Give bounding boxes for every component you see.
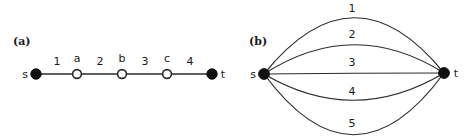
panel-b-edge-labels: 1 2 3 4 5 [349, 2, 356, 130]
edge-label-2: 2 [97, 55, 104, 68]
parallel-edge-label-4: 4 [349, 85, 356, 98]
graph-figure: (a) 1 2 3 4 [0, 0, 471, 139]
node-label-b: b [119, 52, 126, 65]
parallel-edge-label-3: 3 [349, 56, 356, 69]
node-t [207, 69, 217, 79]
node-label-t: t [221, 68, 226, 81]
node-label-c: c [164, 52, 170, 65]
node-b [118, 70, 127, 79]
node-s [31, 69, 41, 79]
node-label-s-multigraph: s [250, 68, 256, 81]
node-c [163, 70, 172, 79]
node-s-multigraph [259, 69, 270, 80]
node-label-s: s [22, 68, 28, 81]
parallel-edge-label-1: 1 [349, 2, 356, 15]
parallel-edge-label-5: 5 [349, 117, 356, 130]
node-label-t-multigraph: t [454, 67, 459, 80]
panel-b: (b) 1 2 3 4 5 [249, 2, 459, 135]
edge-label-3: 3 [142, 55, 149, 68]
parallel-edge-3 [264, 73, 444, 74]
edge-label-4: 4 [187, 55, 194, 68]
panel-b-caption: (b) [249, 35, 267, 48]
panel-a-caption: (a) [13, 35, 31, 48]
figure-container: (a) 1 2 3 4 [0, 0, 471, 139]
edge-label-1: 1 [54, 55, 61, 68]
panel-a: (a) 1 2 3 4 [13, 35, 226, 81]
node-a [73, 70, 82, 79]
node-t-multigraph [439, 68, 450, 79]
parallel-edge-label-2: 2 [349, 28, 356, 41]
node-label-a: a [74, 52, 81, 65]
